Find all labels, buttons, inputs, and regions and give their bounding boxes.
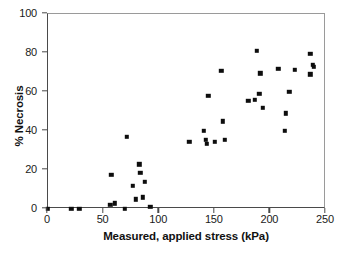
scatter-chart-figure: 050100150200250 020406080100 Measured, a… [0,0,341,254]
data-point [255,49,259,53]
data-point [308,52,312,56]
data-point [220,119,224,123]
data-points-layer [48,14,324,207]
data-point [283,129,287,133]
data-point [187,140,191,144]
data-point [109,173,113,177]
y-axis-tick [42,51,47,52]
data-point [253,98,257,102]
data-point [260,105,264,109]
data-point [130,183,134,187]
data-point [69,207,73,211]
data-point [246,99,250,103]
data-point [213,140,217,144]
y-axis-tick [42,168,47,169]
data-point [257,92,261,96]
data-point [140,195,144,199]
data-point [276,66,280,70]
data-point [312,64,316,68]
x-axis-tick-label: 50 [97,213,109,225]
data-point [258,71,262,75]
data-point [77,207,81,211]
x-axis-title: Measured, applied stress (kPa) [47,230,325,242]
data-point [134,197,138,201]
data-point [223,138,227,142]
plot-area-frame [47,13,325,208]
y-axis-title: % Necrosis [13,56,25,176]
y-axis-tick [42,129,47,130]
y-axis-tick [42,12,47,13]
x-axis-tick-label: 200 [261,213,279,225]
data-point [219,68,223,72]
y-axis-tick-label: 0 [31,202,37,214]
data-point [284,111,288,115]
data-point [138,171,142,175]
y-axis-tick-label: 100 [19,7,37,19]
y-axis-tick-label: 20 [25,163,37,175]
y-axis-tick [42,90,47,91]
y-axis-tick-label: 60 [25,85,37,97]
y-axis-tick-label: 40 [25,124,37,136]
x-axis-tick-label: 100 [149,213,167,225]
data-point [123,207,127,211]
data-point [205,141,209,145]
data-point [206,94,210,98]
x-axis-tick-label: 0 [44,213,50,225]
data-point [201,129,205,133]
y-axis-tick-label: 80 [25,46,37,58]
data-point [287,90,291,94]
data-point [113,201,117,205]
data-point [293,67,297,71]
y-axis-tick [42,207,47,208]
x-axis-tick-label: 150 [205,213,223,225]
data-point [143,179,147,183]
data-point [125,135,129,139]
data-point [148,205,152,209]
x-axis-tick-label: 250 [316,213,334,225]
data-point [308,72,312,76]
data-point [137,162,141,166]
